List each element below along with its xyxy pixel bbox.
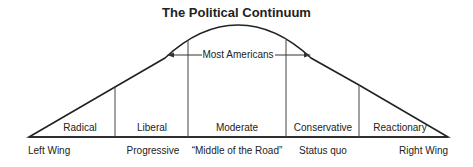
- segment-liberal: Liberal: [137, 122, 167, 133]
- bottom-right-wing: Right Wing: [399, 145, 448, 156]
- segment-radical: Radical: [63, 122, 96, 133]
- segment-conservative: Conservative: [294, 122, 352, 133]
- segment-moderate: Moderate: [216, 122, 258, 133]
- bell-curve: [29, 25, 448, 137]
- bottom-status-quo: Status quo: [299, 145, 347, 156]
- bottom-progressive: Progressive: [127, 145, 180, 156]
- bell-curve-diagram: [0, 0, 473, 167]
- most-americans-label: Most Americans: [202, 49, 273, 60]
- bottom-left-wing: Left Wing: [28, 145, 70, 156]
- segment-reactionary: Reactionary: [373, 122, 426, 133]
- bottom-middle-of-road: “Middle of the Road”: [192, 145, 283, 156]
